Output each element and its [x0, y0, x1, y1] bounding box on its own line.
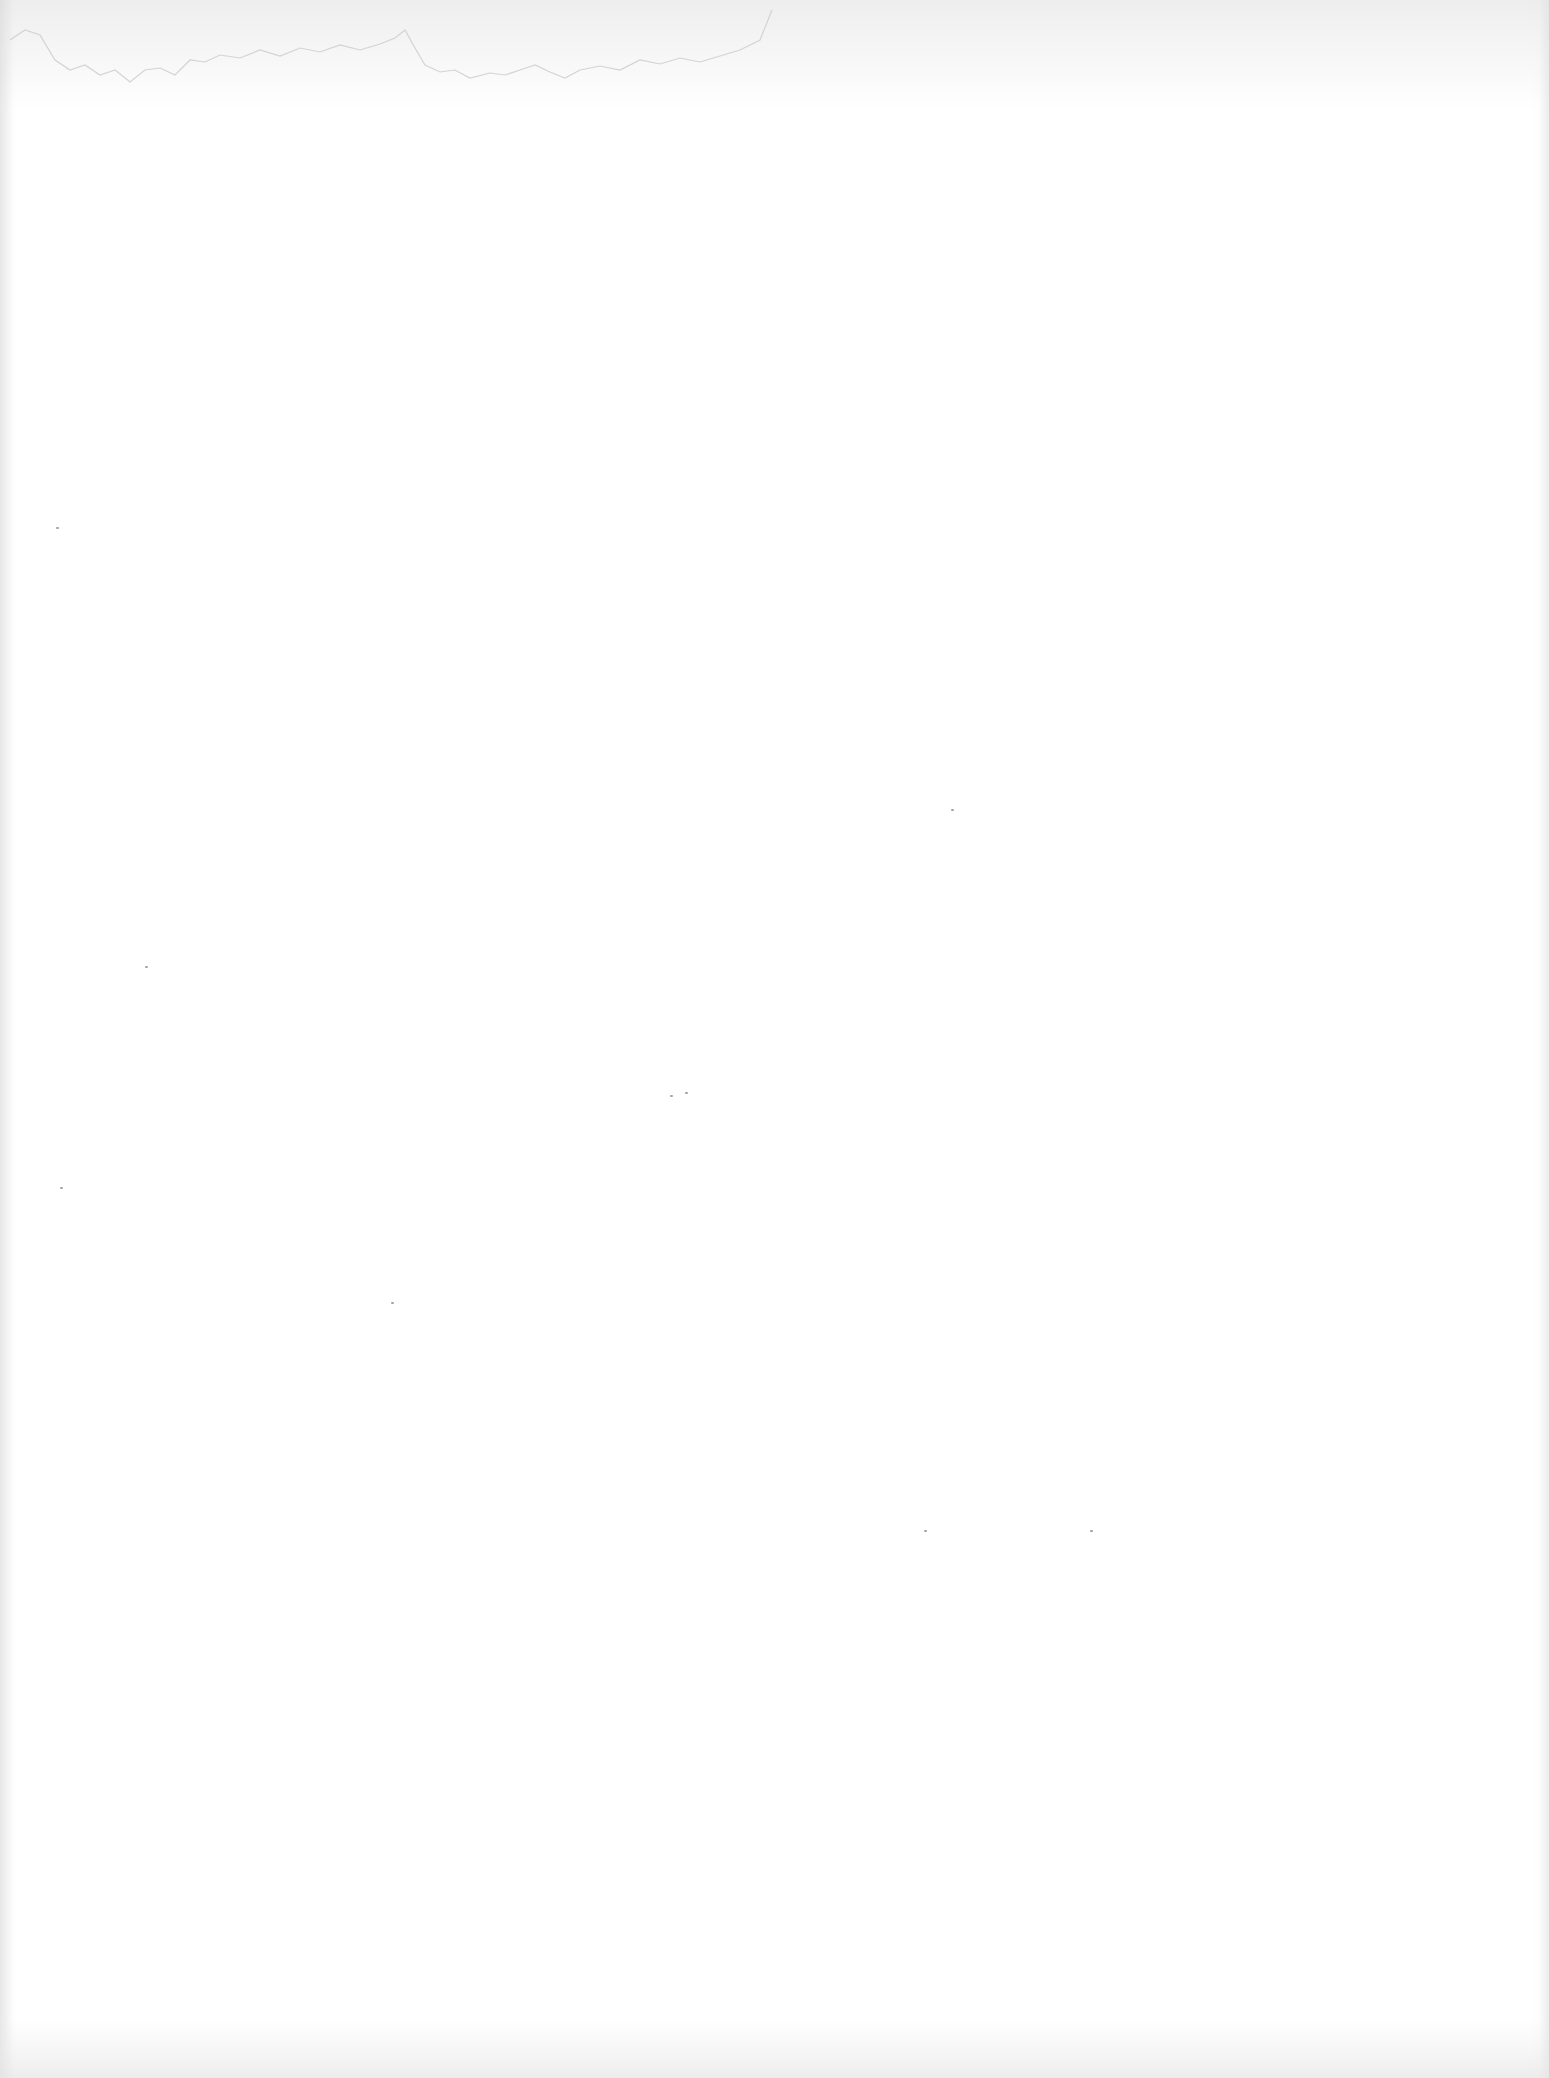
dust-speck — [685, 1092, 688, 1094]
dust-speck — [391, 1302, 394, 1304]
dust-speck — [670, 1095, 673, 1097]
page-left-shading — [0, 0, 14, 2078]
page-right-shading — [1539, 0, 1549, 2078]
dust-speck — [924, 1530, 927, 1532]
water-stain-edge — [0, 0, 1549, 130]
dust-speck — [145, 966, 148, 968]
blank-page — [0, 0, 1549, 2078]
dust-speck — [951, 809, 954, 811]
dust-speck — [60, 1187, 63, 1189]
dust-speck — [56, 527, 59, 529]
dust-speck — [1090, 1530, 1093, 1532]
page-bottom-shading — [0, 2018, 1549, 2078]
